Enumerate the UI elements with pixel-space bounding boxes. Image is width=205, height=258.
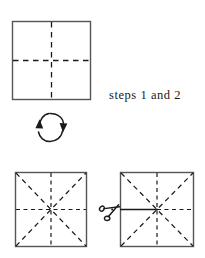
flip-arrow-head-down	[60, 123, 68, 133]
top-square-panel	[13, 22, 91, 100]
flip-arrow-head-up	[35, 119, 43, 128]
flip-over-rotation-arrow	[35, 114, 67, 142]
bottom-left-square-panel	[16, 173, 87, 247]
diagram-canvas	[0, 0, 205, 258]
bottom-right-square-panel	[120, 173, 194, 247]
paper-folding-diagram: steps 1 and 2	[0, 0, 205, 258]
flip-arrow-bottom-stroke	[39, 131, 63, 142]
flip-arrow-right-stroke	[50, 114, 64, 125]
scissors-icon	[98, 198, 123, 222]
